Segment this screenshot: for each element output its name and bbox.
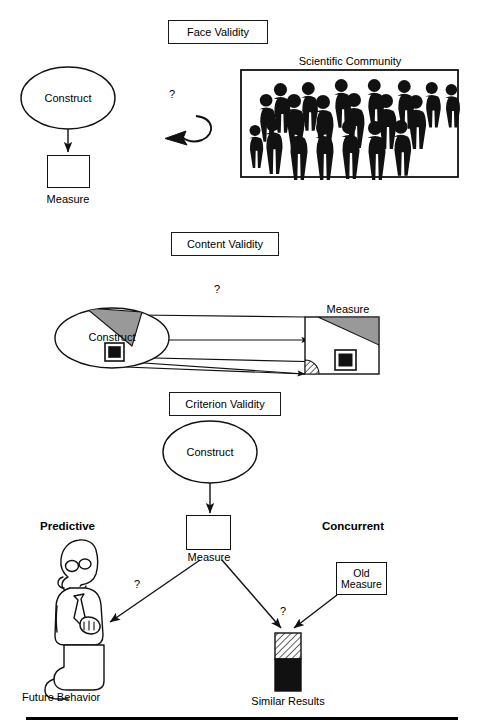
criterion-construct-label: Construct bbox=[186, 446, 233, 458]
criterion-question-left: ? bbox=[134, 578, 140, 590]
standing-person-icon bbox=[45, 540, 104, 699]
predictive-label: Predictive bbox=[40, 520, 95, 532]
criterion-validity-title-box: Criterion Validity bbox=[169, 392, 281, 416]
old-measure-label-line2: Measure bbox=[341, 579, 382, 590]
old-measure-box: Old Measure bbox=[336, 562, 387, 595]
results-bar-icon bbox=[275, 633, 301, 691]
content-question-mark: ? bbox=[214, 283, 220, 295]
content-validity-title: Content Validity bbox=[187, 238, 263, 250]
face-curved-arrowhead bbox=[165, 131, 187, 145]
criterion-validity-title: Criterion Validity bbox=[185, 398, 264, 410]
content-measure-nested-inner bbox=[339, 354, 353, 367]
face-validity-title: Face Validity bbox=[187, 26, 249, 38]
measure-to-future-behavior-arrow bbox=[110, 560, 200, 622]
content-construct-nested-inner bbox=[108, 346, 121, 358]
face-curved-arrow bbox=[182, 116, 211, 141]
face-question-mark: ? bbox=[169, 88, 175, 100]
face-construct-label: Construct bbox=[44, 92, 91, 104]
measure-to-similar-results-arrow bbox=[222, 560, 281, 628]
face-measure-box bbox=[47, 155, 90, 188]
criterion-measure-box bbox=[186, 515, 231, 550]
future-behavior-label: Future Behavior bbox=[22, 691, 100, 703]
face-measure-label: Measure bbox=[47, 193, 90, 205]
footer-divider bbox=[26, 717, 458, 720]
old-measure-to-similar-results-arrow bbox=[294, 595, 337, 628]
content-construct-label: Construct bbox=[88, 331, 135, 343]
face-validity-title-box: Face Validity bbox=[168, 20, 268, 44]
criterion-measure-label: Measure bbox=[188, 551, 231, 563]
diagram-vector-layer bbox=[0, 0, 478, 726]
content-validity-title-box: Content Validity bbox=[171, 232, 279, 256]
content-connector-top bbox=[137, 315, 305, 317]
criterion-question-right: ? bbox=[280, 605, 286, 617]
content-measure-label: Measure bbox=[327, 303, 370, 315]
old-measure-label-line1: Old bbox=[353, 568, 369, 579]
scientific-community-label: Scientific Community bbox=[299, 55, 402, 67]
similar-results-label: Similar Results bbox=[251, 695, 324, 707]
diagram-canvas: Face Validity Content Validity Criterion… bbox=[0, 0, 478, 726]
concurrent-label: Concurrent bbox=[322, 520, 384, 532]
